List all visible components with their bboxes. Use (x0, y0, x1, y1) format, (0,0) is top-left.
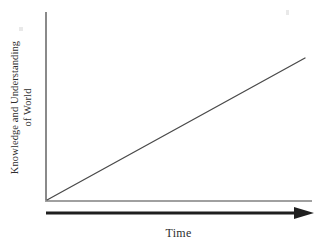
y-axis-label-line-1: Knowledge and Understanding (10, 40, 23, 173)
y-axis-label-line-2: of World (22, 40, 35, 173)
time-direction-arrow (44, 206, 316, 220)
line-chart-figure: Knowledge and Understanding of World Tim… (0, 0, 324, 251)
y-axis-label: Knowledge and Understanding of World (0, 12, 44, 202)
x-axis-label: Time (45, 226, 312, 241)
